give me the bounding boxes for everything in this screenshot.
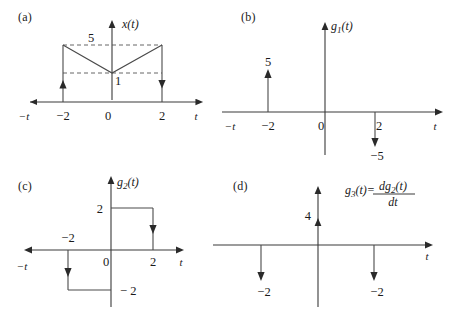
panel-b-plot: g1(t) 5 −5 −t −2 0 2 t xyxy=(227,0,454,162)
panel-b-origin-label: 0 xyxy=(318,119,324,133)
panel-b-y-axis-label: g1(t) xyxy=(331,19,353,35)
panel-d-impulse-up-arrow xyxy=(315,218,322,226)
panel-a: (a) xyxy=(0,0,227,162)
panel-c-y-axis-label: g2(t) xyxy=(117,175,139,191)
panel-a-tick-plus2: 2 xyxy=(159,109,165,123)
panel-b-x-axis-neg-label: −t xyxy=(225,120,236,132)
panel-c-x-axis-right-arrow xyxy=(176,247,184,254)
panel-a-x-axis-neg-label: −t xyxy=(19,110,30,122)
panel-c-plot: g2(t) 2 − 2 −t −2 0 2 t xyxy=(0,162,227,324)
panel-d: (d) g3(t)= dg2(t) dt 4 −2 −2 t xyxy=(227,162,454,324)
panel-c-level-neg-label: − 2 xyxy=(120,284,136,298)
panel-b-impulse-down-label: −5 xyxy=(370,149,383,163)
panel-d-impulse-right-arrow xyxy=(370,272,377,281)
panel-a-tick-minus2: −2 xyxy=(56,109,69,123)
panel-d-x-axis-right-arrow xyxy=(425,242,433,249)
panel-c-y-axis-arrow xyxy=(108,176,115,184)
panel-a-x-axis-left-arrow xyxy=(30,99,37,105)
panel-c-x-axis-pos-label: t xyxy=(179,256,183,268)
panel-c-level-pos-label: 2 xyxy=(97,202,103,216)
panel-b-tick-plus2: 2 xyxy=(376,119,382,133)
panel-a-level-label-1: 1 xyxy=(115,74,121,88)
panel-c-step-right-arrow-down xyxy=(149,225,156,234)
panel-a-level-label-5: 5 xyxy=(88,31,94,45)
panel-d-impulse-left-label: −2 xyxy=(257,285,270,299)
panel-b-impulse-up-arrow xyxy=(264,69,271,78)
panel-c-origin-label: 0 xyxy=(103,255,109,269)
panel-a-origin-label: 0 xyxy=(105,109,111,123)
panel-d-impulse-right-label: −2 xyxy=(370,285,383,299)
panel-c: (c) g2(t) 2 − 2 −t −2 0 2 t xyxy=(0,162,227,324)
panel-b-tick-minus2: −2 xyxy=(261,119,274,133)
panel-a-plot: x(t) 5 1 −t −2 0 2 t xyxy=(0,0,227,162)
panel-d-y-axis-arrow xyxy=(315,186,322,194)
panel-a-edge-left-arrow-up xyxy=(59,80,66,89)
panel-d-x-axis-pos-label: t xyxy=(425,250,429,262)
panel-d-impulse-up-label: 4 xyxy=(305,209,312,223)
panel-c-tick-minus2: −2 xyxy=(61,231,74,245)
figure-container: (a) xyxy=(0,0,454,324)
panel-c-x-axis-neg-label: −t xyxy=(17,260,28,272)
panel-c-step-left-arrow-down xyxy=(64,268,71,277)
panel-b-impulse-up-label: 5 xyxy=(265,55,271,69)
panel-d-fraction-numerator: dg2(t) xyxy=(379,179,407,195)
panel-a-x-axis-pos-label: t xyxy=(194,110,198,122)
panel-b: (b) g1(t) 5 −5 −t −2 0 2 t xyxy=(227,0,454,162)
panel-a-y-axis-arrow xyxy=(109,20,116,28)
panel-d-impulse-left-arrow xyxy=(257,272,264,281)
panel-c-x-axis-left-arrow xyxy=(24,247,32,254)
panel-b-impulse-down-arrow xyxy=(371,138,378,147)
panel-c-tick-plus2: 2 xyxy=(150,255,156,269)
panel-a-y-axis-label: x(t) xyxy=(121,17,139,31)
panel-b-x-axis-right-arrow xyxy=(435,109,443,116)
panel-b-y-axis-arrow xyxy=(322,22,329,30)
panel-d-fraction-denominator: dt xyxy=(388,195,398,209)
panel-b-x-axis-pos-label: t xyxy=(433,120,437,132)
panel-d-y-axis-label: g3(t)= xyxy=(345,183,375,199)
panel-a-edge-right-arrow-down xyxy=(158,80,165,89)
panel-d-plot: g3(t)= dg2(t) dt 4 −2 −2 t xyxy=(227,162,454,324)
